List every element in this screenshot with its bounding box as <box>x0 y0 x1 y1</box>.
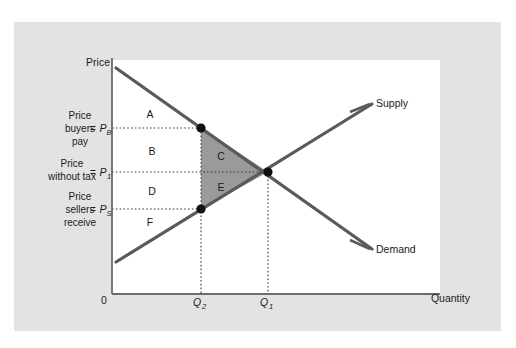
price-label-buyers-pay: Price buyers pay = P B <box>65 110 112 147</box>
price-label-without-tax-line-2: without tax <box>47 171 96 182</box>
price-label-sellers-subscript: S <box>106 209 111 218</box>
price-label-buyers-line-3: pay <box>72 136 88 147</box>
tick-label-q2-symbol: Q <box>193 296 201 308</box>
region-letter-e: E <box>217 181 224 193</box>
tick-label-q1-subscript: 1 <box>269 302 273 311</box>
tick-label-q1-symbol: Q <box>260 296 268 308</box>
point-buyers-price <box>196 123 205 132</box>
point-equilibrium <box>263 167 272 176</box>
supply-curve-label: Supply <box>376 97 409 109</box>
plot-area-background <box>112 60 440 294</box>
supply-demand-chart: Price Quantity 0 Supply Demand A B C D E… <box>0 0 516 348</box>
tick-label-q2: Q 2 <box>193 296 207 311</box>
figure-root: Price Quantity 0 Supply Demand A B C D E… <box>0 0 516 348</box>
region-letter-a: A <box>146 108 153 120</box>
price-label-without-tax: Price without tax = P 1 <box>47 158 111 182</box>
price-label-without-tax-line-1: Price <box>61 158 84 169</box>
price-label-buyers-line-1: Price <box>69 110 92 121</box>
price-label-sellers-line-1: Price <box>69 191 92 202</box>
region-letter-c: C <box>217 150 225 162</box>
tick-label-q1: Q 1 <box>260 296 273 311</box>
region-letter-b: B <box>148 145 155 157</box>
origin-label: 0 <box>101 294 107 306</box>
price-label-sellers-line-3: receive <box>64 217 97 228</box>
price-label-buyers-equals: = <box>90 123 96 134</box>
price-label-without-tax-symbol: P <box>99 166 106 178</box>
price-label-without-tax-equals: = <box>90 167 96 178</box>
point-sellers-price <box>196 204 205 213</box>
price-label-without-tax-subscript: 1 <box>107 172 111 181</box>
price-label-sellers-equals: = <box>90 204 96 215</box>
x-axis-title: Quantity <box>431 292 471 304</box>
y-axis-title: Price <box>86 56 110 68</box>
region-letter-f: F <box>147 216 153 228</box>
price-label-sellers-receive: Price sellers receive = P S <box>64 191 112 228</box>
region-letter-d: D <box>148 185 156 197</box>
demand-curve-label: Demand <box>376 243 416 255</box>
tick-label-q2-subscript: 2 <box>201 302 207 311</box>
price-label-buyers-symbol: P <box>99 122 106 134</box>
price-label-buyers-subscript: B <box>106 128 111 137</box>
price-label-sellers-symbol: P <box>99 203 106 215</box>
